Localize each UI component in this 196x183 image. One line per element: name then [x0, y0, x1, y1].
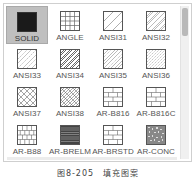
pattern-label: ANGLE [56, 33, 84, 42]
bottom-edge [7, 157, 177, 160]
pattern-grid: SOLID ANGLE ANSI31 [6, 6, 176, 156]
diagonal-hatch-icon [17, 49, 37, 69]
pattern-ansi37[interactable]: ANSI37 [6, 82, 48, 120]
hatch-pattern-palette: SOLID ANGLE ANSI31 [3, 3, 192, 162]
pattern-label: ANSI31 [99, 33, 127, 42]
pattern-ar-brelm[interactable]: AR-BRELM [49, 120, 91, 158]
brick-pattern-icon [60, 125, 80, 145]
concrete-pattern-icon [146, 125, 166, 145]
pattern-label: ANSI32 [142, 33, 170, 42]
pattern-ansi36[interactable]: ANSI36 [135, 44, 177, 82]
diagonal-hatch-icon [103, 49, 123, 69]
pattern-ar-conc[interactable]: AR-CONC [135, 120, 177, 158]
pattern-label: ANSI35 [99, 71, 127, 80]
pattern-ar-brstd[interactable]: AR-BRSTD [92, 120, 134, 158]
brick-pattern-icon [17, 125, 37, 145]
pattern-label: AR-B816 [96, 109, 129, 118]
pattern-label: SOLID [15, 34, 40, 43]
pattern-label: ANSI34 [56, 71, 84, 80]
pattern-ansi35[interactable]: ANSI35 [92, 44, 134, 82]
scrollbar-thumb[interactable] [182, 8, 188, 36]
pattern-ansi32[interactable]: ANSI32 [135, 6, 177, 44]
brick-pattern-icon [146, 87, 166, 107]
grid-pattern-icon [60, 11, 80, 31]
pattern-ar-b816[interactable]: AR-B816 [92, 82, 134, 120]
pattern-ansi38[interactable]: ANSI38 [49, 82, 91, 120]
pattern-label: ANSI37 [13, 109, 41, 118]
solid-pattern-icon [17, 12, 37, 32]
pattern-ansi33[interactable]: ANSI33 [6, 44, 48, 82]
brick-pattern-icon [103, 87, 123, 107]
pattern-ansi31[interactable]: ANSI31 [92, 6, 134, 44]
diagonal-hatch-icon [146, 11, 166, 31]
crosshatch-icon [17, 87, 37, 107]
pattern-label: ANSI36 [142, 71, 170, 80]
pattern-label: AR-B88 [13, 147, 42, 156]
figure-caption: 图8-205 填充图案 [0, 167, 196, 178]
diagonal-hatch-icon [60, 49, 80, 69]
pattern-ar-b816c[interactable]: AR-B816C [135, 82, 177, 120]
pattern-label: AR-CONC [137, 147, 175, 156]
vertical-scrollbar[interactable] [180, 6, 189, 159]
pattern-solid[interactable]: SOLID [6, 6, 48, 44]
pattern-label: ANSI38 [56, 109, 84, 118]
pattern-angle[interactable]: ANGLE [49, 6, 91, 44]
diagonal-hatch-icon [146, 49, 166, 69]
diagonal-hatch-icon [103, 11, 123, 31]
pattern-label: AR-BRELM [49, 147, 91, 156]
pattern-ansi34[interactable]: ANSI34 [49, 44, 91, 82]
pattern-ar-b88[interactable]: AR-B88 [6, 120, 48, 158]
pattern-label: AR-B816C [136, 109, 175, 118]
brick-pattern-icon [103, 125, 123, 145]
pattern-label: ANSI33 [13, 71, 41, 80]
pattern-label: AR-BRSTD [92, 147, 134, 156]
crosshatch-icon [60, 87, 80, 107]
